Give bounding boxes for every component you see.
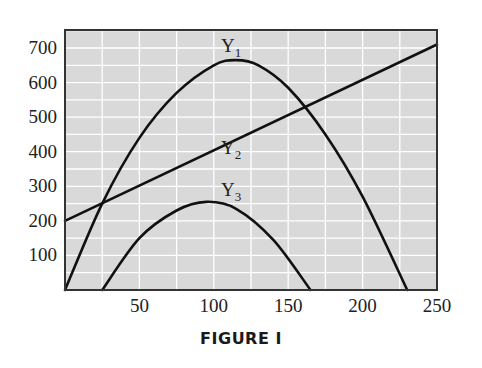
y-tick-label: 700: [29, 37, 58, 58]
x-tick-label: 200: [348, 295, 377, 316]
y-tick-label: 100: [29, 244, 58, 265]
y-axis-tick-labels: 100200300400500600700: [29, 37, 58, 265]
x-axis-tick-labels: 50100150200250: [130, 295, 451, 316]
y-tick-label: 300: [29, 175, 58, 196]
x-tick-label: 150: [274, 295, 303, 316]
y-tick-label: 400: [29, 141, 58, 162]
y-tick-label: 200: [29, 210, 58, 231]
y-tick-label: 600: [29, 72, 58, 93]
line-chart: 50100150200250 100200300400500600700 Y1Y…: [0, 0, 482, 330]
x-tick-label: 100: [200, 295, 229, 316]
y-tick-label: 500: [29, 106, 58, 127]
x-tick-label: 250: [423, 295, 452, 316]
figure-caption: FIGURE I: [0, 329, 482, 348]
x-tick-label: 50: [130, 295, 149, 316]
